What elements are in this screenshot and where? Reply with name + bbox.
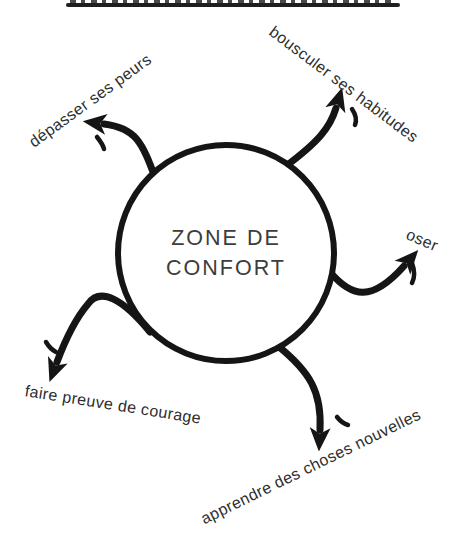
- arrow-apprendre-des-choses-nouvelles: [278, 346, 320, 430]
- arrow-bousculer-ses-habitudes: [286, 108, 336, 166]
- caption-line-2: CONFORT: [121, 253, 331, 283]
- barb-flick-bottom-right: [337, 417, 348, 425]
- arrow-oser: [330, 266, 404, 292]
- caption-line-1: ZONE DE: [121, 223, 331, 253]
- zone-de-confort-caption: ZONE DE CONFORT: [121, 223, 331, 283]
- barb-flick-oser: [412, 263, 414, 283]
- comfort-zone-diagram: ZONE DE CONFORT dépasser ses peurs bousc…: [0, 0, 466, 550]
- barb-flick-top-right: [352, 109, 356, 125]
- barb-flick-top-left: [97, 137, 104, 149]
- arrow-depasser-ses-peurs: [104, 124, 156, 180]
- barb-flick-bottom-left: [46, 342, 56, 352]
